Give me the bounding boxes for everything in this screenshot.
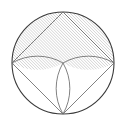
geometry-diagram <box>0 0 126 129</box>
geometric-figure-container <box>0 0 126 129</box>
